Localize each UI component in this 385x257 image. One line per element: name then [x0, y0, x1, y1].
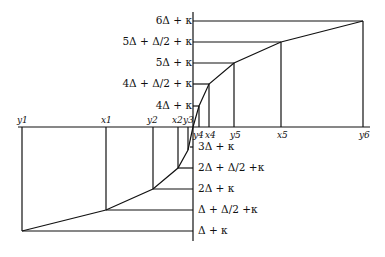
label-4d-half-k: 4Δ + Δ/2 + κ	[122, 78, 192, 89]
axis-label-x2: x2	[172, 116, 183, 125]
diagram-canvas	[0, 0, 385, 257]
label-5d-k: 5Δ + κ	[156, 57, 192, 68]
label-1d-half-k: Δ + Δ/2 +κ	[198, 204, 258, 215]
axis-label-y2: y2	[147, 116, 158, 125]
label-2d-half-k: 2Δ + Δ/2 +κ	[198, 162, 264, 173]
axis-label-y6: y6	[359, 131, 370, 140]
axis-label-y5: y5	[230, 131, 241, 140]
axis-label-x5: x5	[277, 131, 288, 140]
label-3d-k: 3Δ + κ	[198, 141, 234, 152]
label-6d-k: 6Δ + κ	[156, 15, 192, 26]
axis-label-x4: x4	[205, 131, 216, 140]
label-5d-half-k: 5Δ + Δ/2 + κ	[122, 36, 192, 47]
label-1d-k: Δ + κ	[198, 225, 228, 236]
axis-label-y1: y1	[17, 116, 28, 125]
axis-label-x1: x1	[101, 116, 112, 125]
axis-label-y4: y4	[193, 131, 204, 140]
axis-label-y3: y3	[183, 116, 194, 125]
label-4d-k: 4Δ + κ	[156, 100, 192, 111]
label-2d-k: 2Δ + κ	[198, 183, 234, 194]
